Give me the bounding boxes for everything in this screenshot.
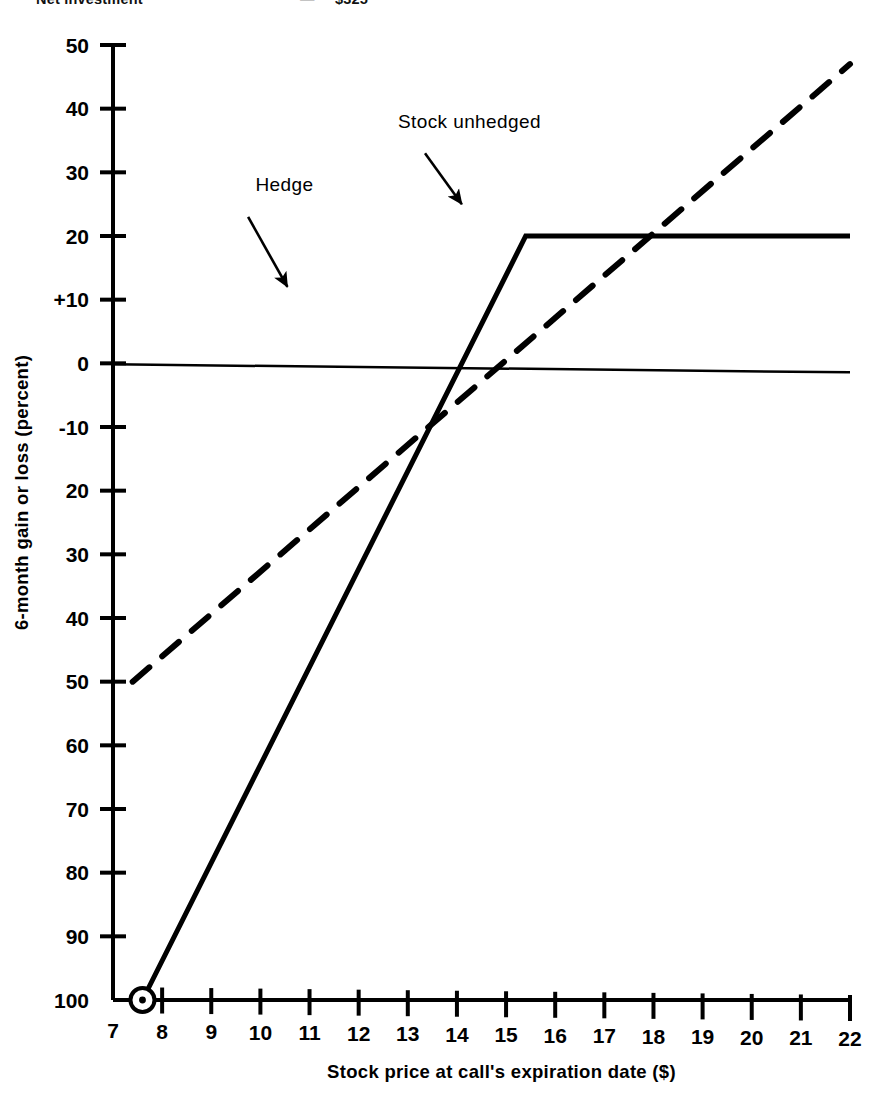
x-tick-label: 15 xyxy=(494,1023,518,1046)
x-tick-label: 8 xyxy=(156,1020,168,1043)
x-tick-label: 18 xyxy=(642,1025,666,1048)
zero-reference-line xyxy=(113,364,850,372)
payoff-diagram: HedgeStock unhedged 50403020+100-1020304… xyxy=(0,0,895,1102)
figure-root: Net investment — $325 HedgeStock unhedge… xyxy=(0,0,895,1102)
x-tick-label: 17 xyxy=(593,1024,616,1047)
x-tick-label: 11 xyxy=(298,1021,321,1044)
x-tick-label: 16 xyxy=(544,1024,567,1047)
annotation-label: Hedge xyxy=(255,174,313,195)
series-line-hedge xyxy=(142,236,850,1000)
y-tick-label: 30 xyxy=(66,543,89,566)
x-tick-label: 13 xyxy=(396,1022,419,1045)
series-line-stock-unhedged xyxy=(133,64,850,682)
y-tick-label: 90 xyxy=(66,925,89,948)
y-tick-label: -10 xyxy=(59,416,89,439)
y-tick-label: 60 xyxy=(66,734,89,757)
y-tick-label: 70 xyxy=(66,798,89,821)
annotation-layer: HedgeStock unhedged xyxy=(248,111,541,287)
y-tick-label: 20 xyxy=(66,479,89,502)
labels-layer: 50403020+100-102030405060708090100789101… xyxy=(11,34,862,1083)
y-tick-label: 40 xyxy=(66,97,89,120)
y-tick-label: 30 xyxy=(66,161,89,184)
x-tick-label: 7 xyxy=(107,1019,119,1042)
x-tick-label: 19 xyxy=(691,1025,714,1048)
y-tick-label: 40 xyxy=(66,607,89,630)
x-axis-title: Stock price at call's expiration date ($… xyxy=(327,1061,676,1082)
x-tick-label: 14 xyxy=(445,1023,469,1046)
series-layer xyxy=(130,64,850,1012)
series-start-marker-dot xyxy=(139,997,146,1004)
x-tick-label: 12 xyxy=(347,1022,370,1045)
y-tick-label: 50 xyxy=(66,34,89,57)
axes-layer xyxy=(100,45,850,1021)
x-tick-label: 10 xyxy=(249,1021,272,1044)
y-tick-label: 50 xyxy=(66,670,89,693)
y-tick-label: 0 xyxy=(77,352,89,375)
annotation-label: Stock unhedged xyxy=(398,111,541,132)
annotation-arrow xyxy=(425,153,462,204)
annotation-arrow xyxy=(248,217,287,287)
y-tick-label: +10 xyxy=(53,288,89,311)
x-tick-label: 21 xyxy=(789,1026,813,1049)
y-axis-title: 6-month gain or loss (percent) xyxy=(11,355,32,630)
y-tick-label: 100 xyxy=(54,989,89,1012)
y-tick-label: 80 xyxy=(66,861,89,884)
x-tick-label: 22 xyxy=(838,1027,861,1050)
y-tick-label: 20 xyxy=(66,225,89,248)
x-tick-label: 20 xyxy=(740,1026,763,1049)
x-tick-label: 9 xyxy=(205,1020,217,1043)
